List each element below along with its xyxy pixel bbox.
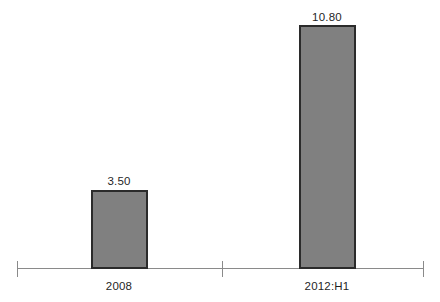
bar-value-label-2012-h1: 10.80 bbox=[277, 11, 377, 23]
bar-2012-h1[interactable] bbox=[299, 25, 356, 269]
bar-chart: 3.50 10.80 2008 2012:H1 bbox=[0, 0, 440, 302]
x-axis-tick-middle bbox=[222, 261, 223, 277]
x-axis-tick-start bbox=[17, 261, 18, 277]
category-label-2008: 2008 bbox=[59, 280, 179, 292]
x-axis-line bbox=[17, 268, 423, 269]
bar-value-label-2008: 3.50 bbox=[69, 175, 169, 187]
plot-area: 3.50 10.80 2008 2012:H1 bbox=[0, 0, 440, 302]
x-axis-tick-end bbox=[423, 261, 424, 277]
bar-2008[interactable] bbox=[91, 190, 148, 269]
category-label-2012-h1: 2012:H1 bbox=[267, 280, 387, 292]
